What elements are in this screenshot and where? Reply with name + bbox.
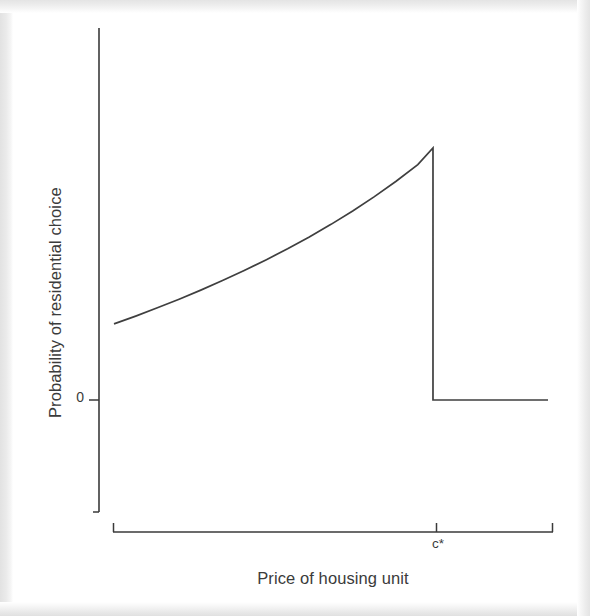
x-axis (113, 523, 553, 532)
plot-area (0, 0, 590, 616)
y-axis-title: Probability of residential choice (46, 88, 65, 418)
y-tick-label-zero: 0 (62, 389, 84, 405)
probability-curve (114, 148, 548, 400)
figure-page: Probability of residential choice 0 c* P… (0, 0, 590, 616)
y-axis (93, 28, 99, 512)
x-axis-title: Price of housing unit (113, 569, 553, 588)
x-tick-label-cstar: c* (418, 536, 458, 551)
